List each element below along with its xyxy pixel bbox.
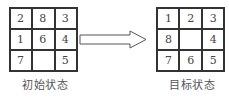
right-arrow-icon	[79, 30, 149, 50]
goal-state-label: 目标状态	[169, 76, 215, 92]
grid-cell-empty	[32, 50, 54, 71]
grid-cell: 3	[202, 8, 224, 29]
initial-state-label: 初始状态	[22, 76, 68, 92]
grid-cell: 3	[55, 8, 77, 29]
goal-state-grid: 1 2 3 8 4 7 6 5	[156, 7, 225, 72]
grid-cell: 6	[179, 50, 201, 71]
grid-cell-empty	[179, 29, 201, 50]
grid-cell: 5	[55, 50, 77, 71]
grid-cell: 6	[32, 29, 54, 50]
grid-cell: 4	[55, 29, 77, 50]
initial-state-grid: 2 8 3 1 6 4 7 5	[9, 7, 78, 72]
grid-cell: 1	[157, 8, 179, 29]
grid-cell: 8	[157, 29, 179, 50]
grid-cell: 2	[179, 8, 201, 29]
grid-cell: 4	[202, 29, 224, 50]
grid-cell: 5	[202, 50, 224, 71]
grid-cell: 1	[10, 29, 32, 50]
grid-cell: 8	[32, 8, 54, 29]
grid-cell: 7	[157, 50, 179, 71]
grid-cell: 2	[10, 8, 32, 29]
grid-cell: 7	[10, 50, 32, 71]
